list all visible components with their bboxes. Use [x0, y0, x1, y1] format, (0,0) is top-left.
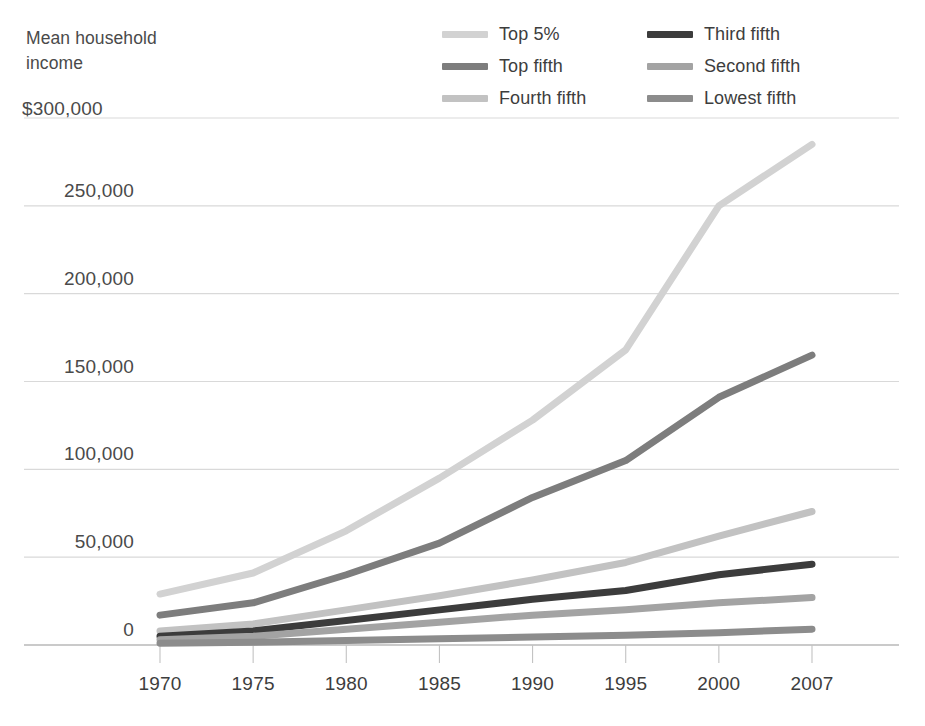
- y-tick-label: 50,000: [22, 531, 134, 553]
- y-tick-label: 200,000: [22, 268, 134, 290]
- x-tick-label: 2000: [679, 673, 759, 695]
- y-tick-label: 0: [22, 619, 134, 641]
- x-tick-label: 1970: [120, 673, 200, 695]
- x-tick-label: 1990: [493, 673, 573, 695]
- y-tick-label: 250,000: [22, 180, 134, 202]
- y-tick-label: 100,000: [22, 443, 134, 465]
- x-tick-label: 1975: [213, 673, 293, 695]
- chart-plot-area: [0, 0, 925, 726]
- x-tick-label: 1980: [306, 673, 386, 695]
- series-line-top-5: [160, 144, 812, 594]
- x-tick-label: 2007: [772, 673, 852, 695]
- y-tick-label: 150,000: [22, 356, 134, 378]
- x-tick-label: 1995: [586, 673, 666, 695]
- income-chart: Mean household income $300,000 Top 5%Thi…: [0, 0, 925, 726]
- x-tick-label: 1985: [399, 673, 479, 695]
